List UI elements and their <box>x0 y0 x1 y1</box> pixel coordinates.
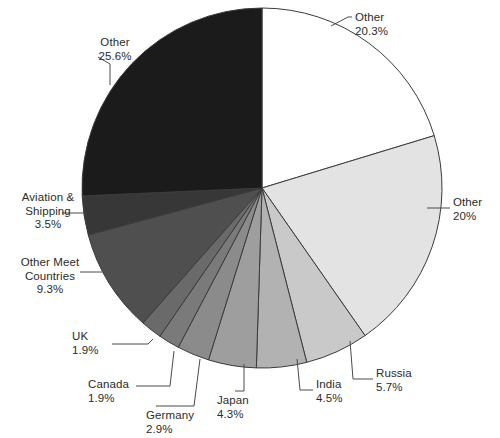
slice-label-value: 1.9% <box>72 344 192 358</box>
slice-callout: Germany2.9% <box>146 409 266 436</box>
slice-label-name: Canada <box>88 378 208 392</box>
slice-label-value: 20.3% <box>355 25 475 39</box>
slice-callout: Other20.3% <box>355 11 475 38</box>
slice-label-name: Other <box>453 196 500 210</box>
slice-label-value: 9.3% <box>0 283 100 297</box>
leader-line <box>235 364 244 391</box>
slice-label-name: India <box>316 378 436 392</box>
slice-callout: Other Meet Countries9.3% <box>0 256 100 297</box>
slice-callout: Aviation & Shipping3.5% <box>0 191 96 232</box>
slice-label-name: Other <box>355 11 475 25</box>
slice-label-name: Other Meet Countries <box>0 256 100 283</box>
slice-label-value: 2.9% <box>146 423 266 437</box>
slice-label-value: 1.9% <box>88 392 208 406</box>
slice-label-name: UK <box>72 330 192 344</box>
slice-label-value: 3.5% <box>0 218 96 232</box>
slice-label-name: Other <box>80 36 150 50</box>
slice-label-name: Germany <box>146 409 266 423</box>
pie-chart: Other20.3%Other20%Russia5.7%India4.5%Jap… <box>0 0 500 438</box>
slice-callout: Canada1.9% <box>88 378 208 405</box>
slice-callout: Other25.6% <box>80 36 150 63</box>
slice-label-name: Japan <box>217 394 337 408</box>
leader-line <box>350 341 373 379</box>
slice-label-value: 20% <box>453 210 500 224</box>
slice-callout: UK1.9% <box>72 330 192 357</box>
slice-callout: Other20% <box>453 196 500 223</box>
slice-label-name: Aviation & Shipping <box>0 191 96 218</box>
leader-line <box>331 17 352 26</box>
slice-label-value: 25.6% <box>80 50 150 64</box>
